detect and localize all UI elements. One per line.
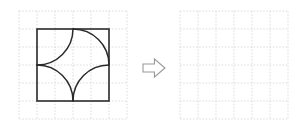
arrow-right-icon: [143, 59, 165, 77]
quarter-circle-arcs: [37, 29, 109, 101]
left-panel-grid: [19, 11, 127, 119]
right-panel-grid: [180, 11, 288, 119]
puzzle-canvas: [0, 0, 302, 135]
puzzle-stage: Geometry puzzle: square with four quarte…: [0, 0, 302, 135]
